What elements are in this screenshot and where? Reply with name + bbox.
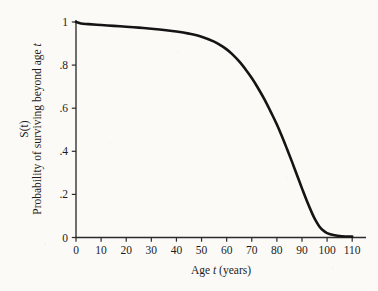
survival-curve-figure: 0.2.4.6.81 0102030405060708090100110 Age… [0,0,378,291]
y-axis-title: Probability of surviving beyond age t [31,42,44,214]
x-tick-label: 10 [95,244,107,256]
x-tick-label: 90 [296,244,308,256]
y-axis-symbol: S(t) [18,120,31,137]
survival-curve-line [76,22,352,237]
x-tick-label: 0 [73,244,79,256]
y-tick-label: 0 [62,232,68,244]
y-tick-label: 1 [62,16,68,28]
y-tick-label: .6 [59,102,68,114]
x-tick-label: 110 [344,244,361,256]
x-tick-label: 100 [318,244,336,256]
x-tick-label: 40 [171,244,183,256]
y-tick-label: .2 [59,188,68,200]
chart-svg: 0.2.4.6.81 0102030405060708090100110 Age… [0,0,378,291]
y-tick-label: .4 [59,145,68,157]
x-tick-label: 30 [146,244,158,256]
y-tick-label: .8 [59,59,68,71]
x-tick-label: 70 [246,244,258,256]
x-tick-label: 60 [221,244,233,256]
x-tick-label: 80 [271,244,283,256]
x-tick-label: 50 [196,244,208,256]
x-axis-title: Age t (years) [191,264,251,277]
x-axis-tick-labels: 0102030405060708090100110 [73,244,361,256]
y-axis-tick-labels: 0.2.4.6.81 [59,16,68,244]
x-tick-label: 20 [120,244,132,256]
